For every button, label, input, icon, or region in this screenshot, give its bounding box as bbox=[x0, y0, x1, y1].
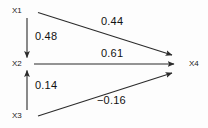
edge-coefficient-x1-x2: 0.48 bbox=[35, 31, 57, 42]
node-label-x3: X3 bbox=[12, 112, 22, 120]
path-diagram: X1 X2 X3 X4 0.48 0.44 0.61 0.14 −0.16 bbox=[0, 0, 208, 128]
node-label-x1: X1 bbox=[12, 7, 22, 15]
node-label-x4: X4 bbox=[189, 60, 199, 68]
node-label-x2: X2 bbox=[12, 60, 22, 68]
edge-coefficient-x2-x4: 0.61 bbox=[101, 48, 123, 59]
edge-coefficient-x3-x2: 0.14 bbox=[35, 80, 57, 91]
edge-coefficient-x1-x4: 0.44 bbox=[101, 16, 123, 27]
edge-coefficient-x3-x4: −0.16 bbox=[97, 95, 126, 106]
